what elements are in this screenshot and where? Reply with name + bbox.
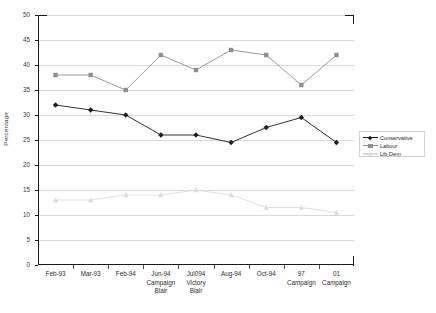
x-axis-tick-mark xyxy=(73,265,74,269)
legend-item-label: Labour xyxy=(378,143,397,149)
gridline xyxy=(39,215,354,216)
chart-legend: ConservativeLabourLib Dem xyxy=(359,131,425,157)
y-axis-tick-label: 35 xyxy=(4,86,30,93)
x-axis-tick-label: 01Campaign xyxy=(308,270,364,287)
x-axis-tick-label-line: Victory xyxy=(168,279,224,288)
gridline xyxy=(39,90,354,91)
y-axis-tick-label: 20 xyxy=(4,161,30,168)
legend-key-icon xyxy=(363,150,378,158)
gridline xyxy=(39,40,354,41)
y-axis-tick-label: 25 xyxy=(4,136,30,143)
legend-item-label: Conservative xyxy=(378,135,413,141)
y-axis-tick-label: 5 xyxy=(4,236,30,243)
x-axis-tick-label-line: Campaign xyxy=(308,279,364,288)
legend-item-label: Lib Dem xyxy=(378,151,401,157)
y-axis-tick-label: 30 xyxy=(4,111,30,118)
frame-cap-right-top xyxy=(353,15,355,24)
gridline xyxy=(39,65,354,66)
legend-key-marker xyxy=(368,135,373,140)
x-axis-tick-label-line: Blair xyxy=(168,287,224,296)
legend-item-lib-dem[interactable]: Lib Dem xyxy=(363,150,422,158)
y-axis-tick-label: 15 xyxy=(4,186,30,193)
gridline xyxy=(39,140,354,141)
gridline xyxy=(39,15,354,16)
legend-key-icon xyxy=(363,142,378,150)
frame-cap-top-left xyxy=(38,15,47,16)
legend-item-conservative[interactable]: Conservative xyxy=(363,134,422,142)
legend-item-labour[interactable]: Labour xyxy=(363,142,422,150)
x-axis-tick-mark xyxy=(284,265,285,269)
y-axis-tick-label: 10 xyxy=(4,211,30,218)
y-axis-tick-label: 40 xyxy=(4,61,30,68)
gridline xyxy=(39,190,354,191)
x-axis-tick-label-line: 01 xyxy=(308,270,364,279)
y-axis-tick-label: 0 xyxy=(4,261,30,268)
plot-area xyxy=(38,15,354,265)
y-axis-tick-mark xyxy=(35,265,39,266)
x-axis-tick-mark xyxy=(214,265,215,269)
gridline xyxy=(39,165,354,166)
gridline xyxy=(39,115,354,116)
x-axis-tick-mark xyxy=(319,265,320,269)
x-axis-tick-mark xyxy=(178,265,179,269)
x-axis-tick-mark xyxy=(108,265,109,269)
y-axis-tick-label: 45 xyxy=(4,36,30,43)
gridline xyxy=(39,240,354,241)
y-axis-tick-label: 50 xyxy=(4,11,30,18)
legend-key-marker xyxy=(368,144,372,148)
legend-key-icon xyxy=(363,134,378,142)
x-axis-tick-mark xyxy=(249,265,250,269)
x-axis-tick-mark xyxy=(143,265,144,269)
frame-cap-right-bottom xyxy=(353,256,355,266)
line-chart: Percentage 05101520253035404550 Feb-93Ma… xyxy=(0,0,436,313)
